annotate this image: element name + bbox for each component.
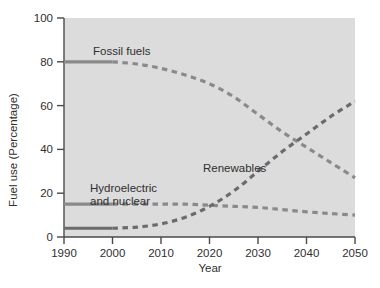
y-tick-label: 20 <box>40 187 53 199</box>
y-axis-title: Fuel use (Percentage) <box>7 93 19 207</box>
y-tick-label: 40 <box>40 143 53 155</box>
x-tick-label: 2030 <box>245 247 271 259</box>
series-label-fossil-fuels: Fossil fuels <box>93 45 151 57</box>
chart-container: 020406080100 199020002010202020302040205… <box>0 0 380 288</box>
x-tick-label: 2050 <box>342 247 368 259</box>
y-tick-label: 100 <box>34 12 53 24</box>
x-tick-label: 2040 <box>294 247 320 259</box>
x-tick-label: 2000 <box>100 247 126 259</box>
x-tick-label: 2020 <box>197 247 223 259</box>
series-label-renewables: Renewables <box>203 162 267 174</box>
fuel-use-projection-chart: 020406080100 199020002010202020302040205… <box>0 0 380 288</box>
x-axis-ticks: 1990200020102020203020402050 <box>51 237 368 259</box>
series-label-and-nuclear: and nuclear <box>90 195 150 207</box>
y-tick-label: 60 <box>40 100 53 112</box>
x-axis-title: Year <box>198 262 221 274</box>
series-label-hydroelectric: Hydroelectric <box>90 182 157 194</box>
y-axis-ticks: 020406080100 <box>34 12 64 243</box>
y-tick-label: 80 <box>40 56 53 68</box>
x-tick-label: 2010 <box>148 247 174 259</box>
x-tick-label: 1990 <box>51 247 77 259</box>
y-tick-label: 0 <box>47 231 53 243</box>
